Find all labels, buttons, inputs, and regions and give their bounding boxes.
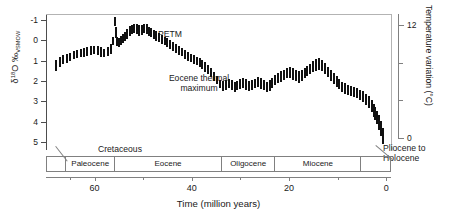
data-point xyxy=(327,67,329,78)
plot-area: PETM Eocene thermal maximum Cretaceous P… xyxy=(46,14,391,150)
data-point xyxy=(184,50,186,59)
data-point xyxy=(251,80,253,90)
x-axis-tick-minor xyxy=(338,177,339,180)
data-point xyxy=(382,128,384,144)
x-axis-tick-minor xyxy=(143,177,144,180)
data-point xyxy=(312,61,314,72)
data-point xyxy=(248,81,250,91)
epoch-label: Eocene xyxy=(154,159,181,168)
epoch-cretaceous xyxy=(47,157,66,171)
data-point xyxy=(280,71,282,82)
secondary-y-axis-tick xyxy=(398,138,404,139)
x-axis-tick-label: 60 xyxy=(80,184,110,193)
data-point xyxy=(330,70,332,81)
data-point xyxy=(55,60,57,71)
data-point xyxy=(199,58,201,67)
secondary-y-axis-tick-label: 12 xyxy=(407,21,416,30)
y-axis-tick-label: 4 xyxy=(18,118,38,127)
y-axis-tick xyxy=(41,20,46,21)
data-point xyxy=(298,71,300,82)
annotation-cretaceous: Cretaceous xyxy=(98,144,142,154)
epoch-label: Oligocene xyxy=(230,159,266,168)
data-point xyxy=(107,47,109,57)
data-point xyxy=(347,85,349,95)
y-axis-tick-labels: -1012345 xyxy=(12,0,38,217)
data-point xyxy=(368,96,370,108)
data-point xyxy=(114,17,116,26)
data-point xyxy=(338,79,340,90)
data-point xyxy=(277,73,279,83)
data-point xyxy=(359,90,361,101)
y-axis-tick xyxy=(41,101,46,102)
data-point xyxy=(193,55,195,64)
data-point xyxy=(356,88,358,99)
data-point xyxy=(187,52,189,61)
secondary-y-axis-tick-label: 0 xyxy=(407,134,412,143)
x-axis-tick-major xyxy=(95,177,96,181)
y-axis-tick xyxy=(41,61,46,62)
data-point xyxy=(175,44,177,53)
annotation-eocene-thermal-maximum: Eocene thermal maximum xyxy=(156,73,242,93)
data-point xyxy=(103,49,105,58)
data-point xyxy=(242,78,244,88)
data-point xyxy=(166,38,168,47)
y-axis-tick-label: 3 xyxy=(18,97,38,106)
data-point xyxy=(112,37,114,45)
data-point xyxy=(283,70,285,81)
data-point xyxy=(301,70,303,81)
data-point xyxy=(204,62,206,72)
plot-right-border xyxy=(391,14,392,150)
secondary-y-axis-tick xyxy=(398,63,403,64)
data-point xyxy=(333,73,335,84)
data-point xyxy=(196,57,198,65)
secondary-y-axis-tick xyxy=(398,100,403,101)
data-point xyxy=(269,80,271,91)
secondary-y-axis-line xyxy=(398,14,399,138)
secondary-y-axis-title: Temperature variation (°C) xyxy=(424,5,434,101)
epoch-label: Paleocene xyxy=(71,159,109,168)
y-axis-tick xyxy=(41,122,46,123)
data-point xyxy=(304,68,306,79)
x-axis-title: Time (million years) xyxy=(46,198,391,209)
data-point xyxy=(274,75,276,86)
data-point xyxy=(306,66,308,77)
data-point xyxy=(245,79,247,90)
y-axis-tick xyxy=(41,81,46,82)
data-point xyxy=(201,60,203,69)
data-point xyxy=(344,83,346,94)
x-axis-tick-label: 20 xyxy=(274,184,304,193)
data-point xyxy=(190,54,192,62)
data-point xyxy=(341,82,343,92)
data-point xyxy=(336,76,338,87)
data-point xyxy=(181,48,183,56)
data-point xyxy=(365,94,367,105)
data-point xyxy=(260,78,262,89)
data-point xyxy=(69,53,71,61)
x-axis-line xyxy=(46,177,391,178)
epoch-paleocene: Paleocene xyxy=(66,157,115,171)
data-point xyxy=(324,63,326,74)
data-point xyxy=(318,58,320,70)
data-point xyxy=(73,51,75,59)
epoch-bar: PaleoceneEoceneOligoceneMiocene xyxy=(46,156,391,172)
epoch-miocene: Miocene xyxy=(275,157,361,171)
x-axis-tick-major xyxy=(192,177,193,181)
data-point xyxy=(90,46,92,55)
secondary-y-axis-tick xyxy=(398,25,404,26)
chart-figure: δ18O ‰VSMOW -1012345 012 Temperature var… xyxy=(0,0,454,217)
y-axis-tick-label: -1 xyxy=(18,16,38,25)
data-point xyxy=(292,68,294,79)
data-point xyxy=(321,60,323,71)
data-point xyxy=(100,47,102,57)
data-point xyxy=(315,59,317,71)
data-point xyxy=(289,67,291,78)
x-axis-tick-minor xyxy=(240,177,241,180)
data-point xyxy=(266,82,268,92)
data-point xyxy=(80,49,82,57)
data-point xyxy=(83,48,85,57)
x-axis-tick-label: 0 xyxy=(371,184,401,193)
data-point xyxy=(353,87,355,98)
x-axis-tick-major xyxy=(289,177,290,181)
annotation-petm: PETM xyxy=(158,29,182,39)
data-point xyxy=(263,80,265,91)
